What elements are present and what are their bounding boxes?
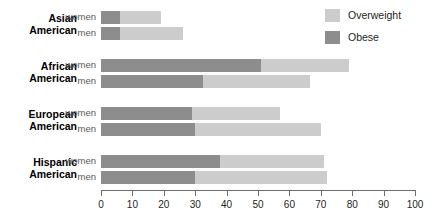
- x-axis-tick-label-70: 70: [315, 199, 326, 210]
- bar-segment-overweight: [120, 27, 183, 40]
- bar-european-american-women: [101, 107, 280, 120]
- x-axis-tick-80: [352, 190, 353, 196]
- series-label-african-american-men: men: [36, 75, 96, 87]
- x-axis-tick-0: [101, 190, 102, 196]
- series-label-european-american-women: women: [36, 107, 96, 119]
- x-axis-tick-label-40: 40: [221, 199, 232, 210]
- x-axis-tick-label-60: 60: [284, 199, 295, 210]
- bar-hispanic-american-men: [101, 171, 327, 184]
- bar-african-american-men: [101, 75, 310, 88]
- x-axis-tick-20: [164, 190, 165, 196]
- bar-segment-obese: [101, 75, 203, 88]
- x-axis: 0102030405060708090100: [101, 190, 415, 222]
- x-axis-tick-90: [384, 190, 385, 196]
- bar-segment-overweight: [120, 11, 161, 24]
- series-label-hispanic-american-women: women: [36, 155, 96, 167]
- x-axis-tick-label-0: 0: [98, 199, 104, 210]
- x-axis-end-cap: [415, 190, 416, 196]
- x-axis-tick-70: [321, 190, 322, 196]
- chart-container: Overweight Obese Asian American African …: [0, 0, 445, 222]
- series-label-asian-american-men: men: [36, 27, 96, 39]
- x-axis-tick-label-100: 100: [407, 199, 424, 210]
- bar-segment-obese: [101, 171, 195, 184]
- x-axis-tick-label-90: 90: [378, 199, 389, 210]
- bar-asian-american-men: [101, 27, 183, 40]
- bar-asian-american-women: [101, 11, 161, 24]
- series-label-european-american-men: men: [36, 123, 96, 135]
- x-axis-tick-40: [227, 190, 228, 196]
- x-axis-tick-10: [132, 190, 133, 196]
- bar-segment-obese: [101, 155, 220, 168]
- series-label-asian-american-women: women: [36, 11, 96, 23]
- bar-segment-overweight: [261, 59, 349, 72]
- series-label-african-american-women: women: [36, 59, 96, 71]
- bar-segment-overweight: [203, 75, 310, 88]
- plot-area: [101, 0, 415, 190]
- series-row-labels: women men women men women men women men: [0, 0, 100, 188]
- bar-segment-overweight: [220, 155, 324, 168]
- x-axis-tick-label-50: 50: [252, 199, 263, 210]
- bar-segment-obese: [101, 11, 120, 24]
- bar-segment-obese: [101, 27, 120, 40]
- series-label-hispanic-american-men: men: [36, 171, 96, 183]
- x-axis-tick-30: [195, 190, 196, 196]
- x-axis-tick-label-20: 20: [158, 199, 169, 210]
- bar-segment-overweight: [195, 123, 321, 136]
- bar-segment-overweight: [192, 107, 280, 120]
- bar-segment-obese: [101, 123, 195, 136]
- bar-segment-obese: [101, 107, 192, 120]
- bar-segment-overweight: [195, 171, 327, 184]
- x-axis-tick-label-10: 10: [127, 199, 138, 210]
- bar-hispanic-american-women: [101, 155, 324, 168]
- x-axis-tick-60: [289, 190, 290, 196]
- bar-european-american-men: [101, 123, 321, 136]
- bar-segment-obese: [101, 59, 261, 72]
- bar-african-american-women: [101, 59, 349, 72]
- x-axis-tick-50: [258, 190, 259, 196]
- x-axis-tick-label-80: 80: [347, 199, 358, 210]
- x-axis-tick-label-30: 30: [190, 199, 201, 210]
